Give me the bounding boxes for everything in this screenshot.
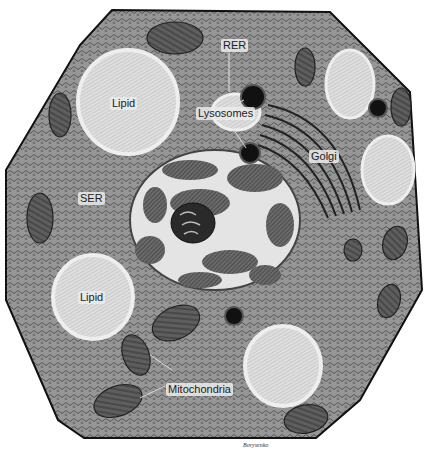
label-golgi: Golgi [309, 150, 339, 163]
label-ser: SER [78, 192, 105, 205]
label-lipid-top: Lipid [110, 97, 137, 110]
mitochondrion [295, 48, 315, 86]
artist-signature: Borysenko [243, 442, 268, 448]
label-rer: RER [221, 39, 248, 52]
lipid-droplet [245, 326, 321, 406]
lysosome [240, 143, 260, 163]
label-mitochondria: Mitochondria [166, 383, 233, 396]
label-lysosomes: Lysosomes [196, 107, 255, 120]
nucleolus [171, 203, 215, 243]
lysosome [225, 307, 243, 325]
lysosome [369, 99, 387, 117]
mitochondrion [27, 193, 53, 243]
mitochondrion [391, 88, 411, 126]
lipid-droplet [362, 136, 414, 204]
lipid-droplet [326, 50, 374, 118]
mitochondrion [147, 22, 203, 54]
mitochondrion [49, 93, 71, 137]
lysosome [241, 85, 265, 109]
label-lipid-bottom: Lipid [78, 291, 105, 304]
mitochondrion [344, 239, 362, 261]
cell-illustration: RER Lipid Lysosomes Golgi SER Lipid Mito… [0, 0, 430, 454]
